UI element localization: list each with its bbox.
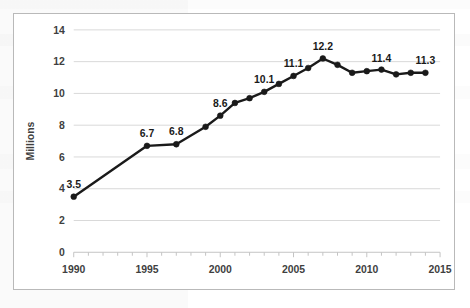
data-point-label: 6.8 <box>169 126 184 137</box>
data-point-marker <box>408 70 414 76</box>
x-axis-tick-labels: 199019952000200520102015 <box>62 264 452 275</box>
y-axis-tick-label: 8 <box>59 120 65 131</box>
data-point-marker <box>291 73 297 79</box>
data-point-label: 11.1 <box>284 58 304 69</box>
x-axis-tick-label: 2010 <box>355 264 378 275</box>
data-point-marker <box>144 143 150 149</box>
data-point-marker <box>232 100 238 106</box>
y-axis-title: Millions <box>25 122 36 161</box>
y-axis-title-text: Millions <box>25 122 36 161</box>
x-axis-tick-label: 2005 <box>282 264 305 275</box>
x-axis-tick-label: 2015 <box>428 264 451 275</box>
data-point-marker <box>276 81 282 87</box>
data-point-label: 10.1 <box>254 74 275 85</box>
data-point-marker <box>261 89 267 95</box>
data-point-label: 11.3 <box>416 55 436 66</box>
data-point-label: 3.5 <box>66 179 81 190</box>
data-point-marker <box>335 62 341 68</box>
data-point-labels: 3.56.76.88.610.111.112.211.411.3 <box>66 41 435 190</box>
data-point-marker <box>305 65 311 71</box>
data-series-line <box>74 58 426 196</box>
y-axis-tick-label: 6 <box>59 152 65 163</box>
data-point-marker <box>379 67 385 73</box>
y-axis-tick-label: 0 <box>59 247 65 258</box>
x-axis-tick-label: 1995 <box>135 264 158 275</box>
series-line-path <box>74 58 426 196</box>
data-point-marker <box>203 124 209 130</box>
data-point-marker <box>173 141 179 147</box>
y-axis-tick-label: 2 <box>59 215 65 226</box>
y-axis-tick-label: 10 <box>53 88 65 99</box>
y-axis-tick-labels: 02468101214 <box>53 25 65 258</box>
x-axis-tick-label: 2000 <box>209 264 232 275</box>
data-point-marker <box>349 70 355 76</box>
data-point-label: 6.7 <box>140 128 155 139</box>
data-point-markers <box>71 56 428 200</box>
x-axis-tick-label: 1990 <box>62 264 85 275</box>
data-point-marker <box>320 56 326 62</box>
y-axis-tick-label: 14 <box>53 25 65 36</box>
axis-tick-marks <box>74 252 440 257</box>
y-axis-tick-label: 4 <box>59 183 65 194</box>
data-point-marker <box>71 194 77 200</box>
data-point-marker <box>217 113 223 119</box>
data-point-marker <box>393 71 399 77</box>
line-chart-figure: 02468101214 199019952000200520102015 Mil… <box>13 13 455 290</box>
data-point-label: 12.2 <box>313 41 334 52</box>
y-axis-tick-label: 12 <box>53 56 65 67</box>
data-point-marker <box>247 95 253 101</box>
data-point-marker <box>423 70 429 76</box>
data-point-label: 11.4 <box>372 53 392 64</box>
data-point-label: 8.6 <box>213 98 228 109</box>
data-point-marker <box>364 68 370 74</box>
chart-canvas: 02468101214 199019952000200520102015 Mil… <box>14 14 454 289</box>
